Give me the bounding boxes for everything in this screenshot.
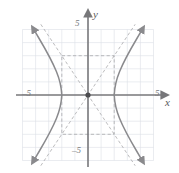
left-branch-upper — [35, 31, 62, 95]
x-axis-label: x — [165, 96, 170, 108]
right-branch-lower — [114, 95, 141, 159]
x-axis-tick-negative-5: –5 — [22, 88, 31, 98]
y-axis-tick-5: 5 — [75, 18, 80, 28]
right-branch-upper — [114, 31, 141, 95]
origin-dot — [85, 92, 90, 97]
x-axis-tick-5: 5 — [155, 88, 160, 98]
graph-figure: x y 5 –5 5 –5 — [0, 0, 179, 173]
y-axis-tick-negative-5: –5 — [72, 145, 81, 155]
y-axis-label: y — [93, 8, 98, 20]
plot-canvas — [0, 0, 179, 173]
left-branch-lower — [35, 95, 62, 159]
